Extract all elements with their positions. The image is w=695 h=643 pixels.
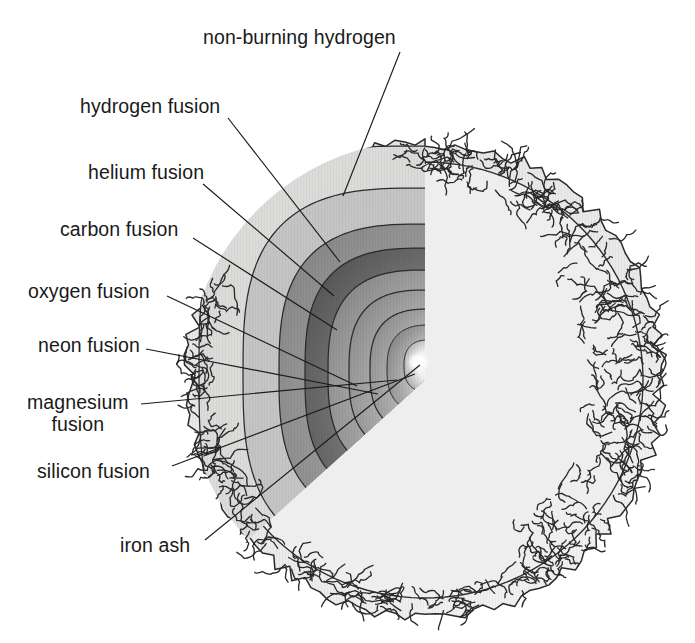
label-line: carbon fusion bbox=[60, 219, 178, 241]
label-line: non-burning hydrogen bbox=[203, 27, 396, 49]
label-magnesium-fusion: magnesiumfusion bbox=[27, 392, 129, 436]
label-line: oxygen fusion bbox=[28, 281, 150, 303]
label-line: fusion bbox=[27, 414, 129, 436]
label-line: neon fusion bbox=[38, 335, 140, 357]
label-line: magnesium bbox=[27, 392, 129, 414]
iron-core-highlight bbox=[409, 354, 427, 370]
label-line: silicon fusion bbox=[37, 461, 150, 483]
label-line: helium fusion bbox=[88, 162, 204, 184]
label-line: hydrogen fusion bbox=[80, 96, 220, 118]
label-hydrogen-fusion: hydrogen fusion bbox=[80, 96, 220, 118]
convection-squiggle bbox=[285, 566, 288, 583]
label-helium-fusion: helium fusion bbox=[88, 162, 204, 184]
label-neon-fusion: neon fusion bbox=[38, 335, 140, 357]
label-iron-ash: iron ash bbox=[120, 535, 190, 557]
label-silicon-fusion: silicon fusion bbox=[37, 461, 150, 483]
diagram-stage: non-burning hydrogenhydrogen fusionheliu… bbox=[0, 0, 695, 643]
label-line: iron ash bbox=[120, 535, 190, 557]
label-non-burning-hydrogen: non-burning hydrogen bbox=[203, 27, 396, 49]
label-oxygen-fusion: oxygen fusion bbox=[28, 281, 150, 303]
label-carbon-fusion: carbon fusion bbox=[60, 219, 178, 241]
